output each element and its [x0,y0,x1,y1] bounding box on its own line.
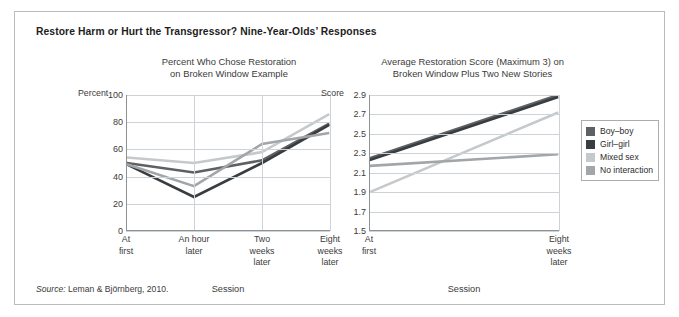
x-tick-label-line: first [334,246,404,258]
gridline-vertical [262,95,263,231]
gridline-horizontal [369,153,559,154]
chart-2-title: Average Restoration Score (Maximum 3) on… [345,56,600,81]
x-tick-label-line: later [524,257,594,269]
x-tick-label-line: later [159,246,229,258]
x-tick-label: Atfirst [91,234,161,257]
chart-1-title: Percent Who Chose Restoration on Broken … [119,56,339,81]
gridline-horizontal [126,231,330,232]
x-tick-label: Twoweekslater [227,234,297,269]
gridline-horizontal [369,212,559,213]
legend-color-swatch [586,140,595,149]
x-tick-label-line: At [91,234,161,246]
chart-2-x-axis-line [369,230,559,231]
y-tick-label: 2.9 [353,90,366,100]
chart-2-plot-area [369,95,559,231]
figure-container: Restore Harm or Hurt the Transgressor? N… [14,11,665,305]
gridline-horizontal [369,173,559,174]
gridline-horizontal [126,149,330,150]
y-tick-label: 2.3 [353,148,366,158]
x-tick-label-line: weeks [524,246,594,258]
legend-item: Boy–boy [586,125,653,137]
legend-item-label: Boy–boy [600,126,633,136]
legend-color-swatch [586,153,595,162]
gridline-vertical [559,95,560,231]
x-tick-label-line: Two [227,234,297,246]
gridline-horizontal [369,192,559,193]
y-tick-label: 20 [113,199,123,209]
source-label: Source: [36,284,66,294]
y-tick-label: 2.7 [353,109,366,119]
legend-color-swatch [586,127,595,136]
legend-item: No interaction [586,164,653,176]
gridline-horizontal [369,114,559,115]
chart-1-x-ticks: AtfirstAn hourlaterTwoweekslaterEightwee… [126,234,330,284]
series-line [370,97,558,160]
y-tick-label: 60 [113,144,123,154]
y-tick-label: 80 [113,117,123,127]
chart-2-x-ticks: AtfirstEightweekslater [369,234,559,284]
gridline-horizontal [369,134,559,135]
source-value: Leman & Björnberg, 2010. [68,284,168,294]
gridline-horizontal [369,231,559,232]
gridline-horizontal [126,95,330,96]
legend-item: Girl–girl [586,138,653,150]
x-tick-label-line: Eight [524,234,594,246]
gridline-horizontal [126,177,330,178]
chart-2-y-ticks: 2.92.72.52.32.11.91.71.5 [326,95,366,231]
chart-2-title-line-1: Average Restoration Score (Maximum 3) on [345,56,600,68]
gridline-horizontal [126,122,330,123]
chart-2-x-axis-title: Session [369,284,559,294]
legend-item: Mixed sex [586,151,653,163]
legend: Boy–boyGirl–girlMixed sexNo interaction [581,120,659,181]
y-tick-label: 1.9 [353,187,366,197]
chart-1-title-line-1: Percent Who Chose Restoration [119,56,339,68]
chart-1-y-ticks: 100806040200 [83,95,123,231]
gridline-vertical [194,95,195,231]
x-tick-label-line: later [227,257,297,269]
legend-item-label: Girl–girl [600,139,630,149]
y-tick-label: 40 [113,172,123,182]
chart-1-series-svg [126,95,330,231]
y-tick-label: 100 [108,90,123,100]
gridline-horizontal [126,204,330,205]
x-tick-label: An hourlater [159,234,229,257]
legend-item-label: Mixed sex [600,152,639,162]
gridline-horizontal [369,95,559,96]
chart-2-title-line-2: Broken Window Plus Two New Stories [345,68,600,80]
x-tick-label-line: An hour [159,234,229,246]
chart-1-x-axis-line [126,230,330,231]
x-tick-label-line: weeks [227,246,297,258]
y-tick-label: 1.7 [353,207,366,217]
x-tick-label-line: first [91,246,161,258]
chart-2-series-svg [369,95,559,231]
legend-color-swatch [586,166,595,175]
chart-1-plot-area [126,95,330,231]
chart-2-y-axis-line [369,95,370,231]
y-tick-label: 2.5 [353,129,366,139]
legend-item-label: No interaction [600,165,653,175]
x-tick-label: Atfirst [334,234,404,257]
x-tick-label: Eightweekslater [524,234,594,269]
source-note: Source: Leman & Björnberg, 2010. [36,284,168,294]
chart-1-y-axis-line [126,95,127,231]
series-line [370,154,558,166]
x-tick-label-line: later [295,257,365,269]
series-line [370,95,558,158]
x-tick-label-line: At [334,234,404,246]
y-tick-label: 2.1 [353,168,366,178]
chart-1-title-line-2: on Broken Window Example [119,68,339,80]
figure-title: Restore Harm or Hurt the Transgressor? N… [36,26,377,37]
